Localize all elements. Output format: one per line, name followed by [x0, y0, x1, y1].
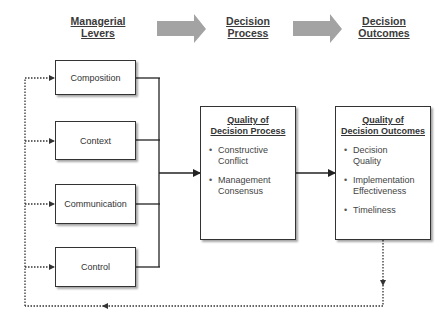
- process-box-title: Quality of Decision Process: [201, 115, 295, 137]
- lever-label: Context: [80, 136, 111, 146]
- lever-box-control: Control: [55, 247, 136, 287]
- stage-arrow-1: [157, 14, 206, 43]
- list-item: Implementation Effectiveness: [344, 175, 427, 197]
- title-line: Decision Process: [201, 126, 295, 137]
- outcomes-quality-box: Quality of Decision Outcomes Decision Qu…: [335, 106, 431, 240]
- stage-arrow-2: [293, 14, 342, 43]
- outcomes-box-title: Quality of Decision Outcomes: [336, 115, 430, 137]
- stage-title-managerial-levers: Managerial Levers: [58, 15, 138, 39]
- stage-title-line: Levers: [58, 27, 138, 39]
- stage-title-decision-process: Decision Process: [218, 15, 278, 39]
- lever-box-context: Context: [55, 121, 136, 160]
- stage-title-line: Managerial: [58, 15, 138, 27]
- title-line: Decision Outcomes: [336, 126, 430, 137]
- lever-box-communication: Communication: [55, 184, 136, 224]
- list-item: Timeliness: [344, 205, 423, 216]
- lever-label: Control: [81, 262, 110, 272]
- stage-title-decision-outcomes: Decision Outcomes: [352, 15, 416, 39]
- title-line: Quality of: [336, 115, 430, 126]
- list-item: Constructive Conflict: [209, 145, 278, 167]
- stage-title-line: Decision: [218, 15, 278, 27]
- list-item: Management Consensus: [209, 175, 280, 197]
- lever-box-composition: Composition: [55, 60, 136, 95]
- stage-title-line: Decision: [352, 15, 416, 27]
- process-quality-box: Quality of Decision Process Constructive…: [200, 106, 296, 240]
- title-line: Quality of: [201, 115, 295, 126]
- stage-title-line: Outcomes: [352, 27, 416, 39]
- lever-label: Composition: [70, 73, 120, 83]
- lever-label: Communication: [64, 199, 127, 209]
- process-criteria-list: Constructive Conflict Management Consens…: [201, 145, 295, 197]
- stage-title-line: Process: [218, 27, 278, 39]
- outcomes-criteria-list: Decision Quality Implementation Effectiv…: [336, 145, 430, 216]
- list-item: Decision Quality: [344, 145, 401, 167]
